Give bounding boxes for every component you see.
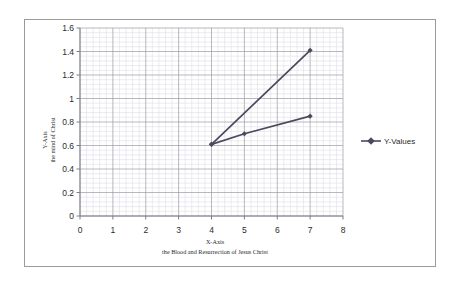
x-axis-tick-label: 2 bbox=[143, 225, 148, 235]
x-axis-subtitle: the Blood and Resurrection of Jesus Chri… bbox=[162, 248, 268, 255]
y-axis-tick-label: 1.4 bbox=[62, 47, 74, 57]
y-axis-tick-label: 0.2 bbox=[62, 188, 74, 198]
x-axis-tick-labels: 012345678 bbox=[78, 225, 346, 235]
line-chart: 00.20.40.60.811.21.41.6 012345678 Y-Axis… bbox=[25, 20, 435, 266]
y-axis-tick-label: 0.4 bbox=[62, 164, 74, 174]
legend-diamond-icon bbox=[367, 137, 375, 145]
y-axis-title: Y-Axis bbox=[41, 131, 48, 149]
x-axis-tick-label: 6 bbox=[275, 225, 280, 235]
y-axis-tick-label: 1.2 bbox=[62, 70, 74, 80]
y-axis-tick-labels: 00.20.40.60.811.21.41.6 bbox=[62, 23, 74, 221]
series-data-point[interactable] bbox=[308, 114, 313, 119]
y-axis-tick-label: 1.6 bbox=[62, 23, 74, 33]
x-axis-tick-label: 0 bbox=[78, 225, 83, 235]
chart-frame: 00.20.40.60.811.21.41.6 012345678 Y-Axis… bbox=[24, 19, 436, 267]
series-line[interactable] bbox=[212, 50, 311, 144]
data-series-lines[interactable] bbox=[212, 50, 311, 144]
y-axis-tick-label: 0.6 bbox=[62, 141, 74, 151]
x-axis-tick-label: 3 bbox=[176, 225, 181, 235]
legend-entry-label: Y-Values bbox=[384, 137, 415, 146]
x-axis-tick-label: 1 bbox=[111, 225, 116, 235]
x-axis-tick-label: 4 bbox=[209, 225, 214, 235]
chart-legend[interactable]: Y-Values bbox=[361, 137, 415, 146]
x-axis-title: X-Axis bbox=[206, 238, 225, 245]
y-axis-tick-label: 0.8 bbox=[62, 117, 74, 127]
x-axis-tick-label: 5 bbox=[242, 225, 247, 235]
y-axis-subtitle: the mind of Christ bbox=[49, 117, 56, 162]
y-axis-tick-label: 1 bbox=[69, 94, 74, 104]
x-axis-tick-label: 8 bbox=[341, 225, 346, 235]
x-axis-tick-label: 7 bbox=[308, 225, 313, 235]
y-axis-tick-label: 0 bbox=[69, 211, 74, 221]
series-data-point[interactable] bbox=[242, 131, 247, 136]
